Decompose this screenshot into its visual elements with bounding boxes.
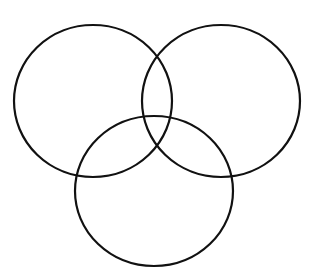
bottom-circle — [75, 116, 233, 266]
venn-diagram — [0, 0, 309, 277]
right-circle — [142, 25, 300, 177]
left-circle — [14, 25, 172, 177]
